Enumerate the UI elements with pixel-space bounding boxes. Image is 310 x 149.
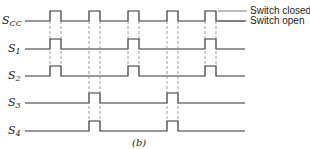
transition-guides [50, 21, 216, 121]
signal-label-3: S3 [8, 96, 21, 110]
waveform-3 [25, 93, 245, 103]
waveform-1 [25, 39, 245, 49]
waveform-cc [25, 11, 245, 21]
signal-label-1: S1 [8, 42, 21, 56]
legend-switch-open: Switch open [250, 15, 304, 26]
timing-diagram: SCCS1S2S3S4 Switch closed Switch open (b… [0, 0, 310, 149]
signal-label-4: S4 [8, 124, 21, 138]
signal-label-cc: SCC [2, 14, 22, 28]
waveform-2 [25, 66, 245, 76]
signal-labels: SCCS1S2S3S4 [2, 14, 22, 138]
figure-caption: (b) [132, 137, 146, 148]
legend: Switch closed Switch open [218, 5, 310, 26]
signal-label-2: S2 [8, 69, 21, 83]
waveform-4 [25, 121, 245, 131]
waveforms [25, 11, 245, 131]
